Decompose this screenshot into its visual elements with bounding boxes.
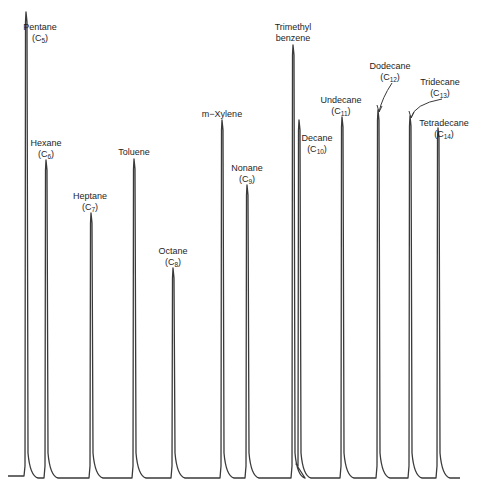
peak-label-pentane: Pentane(C5)	[23, 22, 57, 46]
peak-label-m-xylene: m−Xylene	[202, 109, 242, 120]
peak-label-tridecane: Tridecane(C13)	[420, 77, 460, 101]
peak-label-nonane: Nonane(C9)	[231, 163, 263, 187]
peak-label-toluene: Toluene	[118, 147, 150, 158]
peak-label-decane: Decane(C10)	[301, 133, 332, 157]
peak-label-octane: Octane(C8)	[158, 246, 187, 270]
peak-label-undecane: Undecane(C11)	[320, 95, 361, 119]
peak-label-hexane: Hexane(C6)	[30, 138, 61, 162]
peak-label-dodecane: Dodecane(C12)	[369, 61, 410, 85]
peak-label-trimethyl-benzene: Trimethylbenzene	[275, 22, 312, 44]
peak-label-tetradecane: Tetradecane(C14)	[419, 118, 469, 142]
arrow-icon	[411, 99, 442, 118]
peak-label-heptane: Heptane(C7)	[73, 191, 107, 215]
